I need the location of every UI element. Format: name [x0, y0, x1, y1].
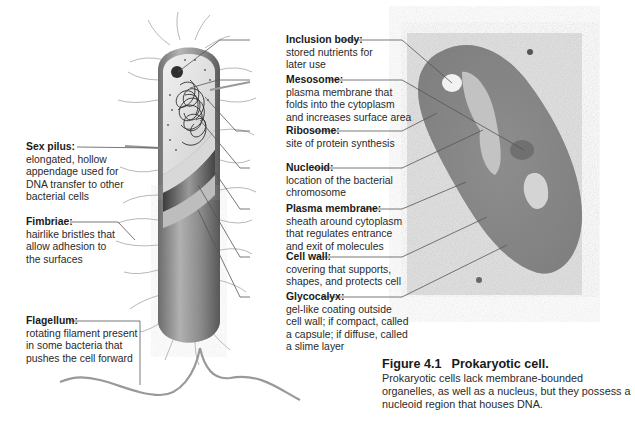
- label-flagellum: Flagellum: rotating filament present in …: [26, 315, 137, 365]
- figure-number: Figure 4.1: [382, 357, 442, 371]
- figure-title-text: Prokaryotic cell.: [452, 357, 549, 371]
- label-title: Ribosome:: [286, 125, 395, 138]
- label-inclusion-body: Inclusion body: stored nutrients for lat…: [286, 34, 373, 72]
- figure-caption-text: Prokaryotic cells lack membrane-bounded …: [382, 372, 632, 412]
- label-sex-pilus: Sex pilus: elongated, hollow appendage u…: [26, 141, 124, 204]
- label-title: Flagellum:: [26, 315, 137, 328]
- label-title: Plasma membrane:: [286, 203, 402, 216]
- label-desc: rotating filament present in some bacter…: [26, 328, 137, 366]
- label-title: Glycocalyx:: [286, 291, 408, 304]
- label-desc: plasma membrane that folds into the cyto…: [286, 87, 411, 125]
- label-desc: gel-like coating outside cell wall; if c…: [286, 304, 408, 354]
- label-desc: hairlike bristles that allow adhesion to…: [26, 229, 115, 267]
- label-desc: site of protein synthesis: [286, 138, 395, 151]
- label-title: Nucleoid:: [286, 162, 393, 175]
- label-desc: location of the bacterial chromosome: [286, 175, 393, 200]
- label-fimbriae: Fimbriae: hairlike bristles that allow a…: [26, 216, 115, 266]
- label-ribosome: Ribosome: site of protein synthesis: [286, 125, 395, 150]
- label-title: Cell wall:: [286, 251, 401, 264]
- label-cell-wall: Cell wall: covering that supports, shape…: [286, 251, 401, 289]
- figure-title: Figure 4.1Prokaryotic cell.: [382, 357, 632, 372]
- label-desc: stored nutrients for later use: [286, 47, 373, 72]
- label-desc: sheath around cytoplasm that regulates e…: [286, 216, 402, 254]
- label-mesosome: Mesosome: plasma membrane that folds int…: [286, 74, 411, 124]
- micrograph: [407, 33, 582, 295]
- label-glycocalyx: Glycocalyx: gel-like coating outside cel…: [286, 291, 408, 354]
- label-title: Sex pilus:: [26, 141, 124, 154]
- label-nucleoid: Nucleoid: location of the bacterial chro…: [286, 162, 393, 200]
- figure-caption: Figure 4.1Prokaryotic cell. Prokaryotic …: [382, 357, 632, 412]
- label-desc: elongated, hollow appendage used for DNA…: [26, 154, 124, 204]
- label-title: Fimbriae:: [26, 216, 115, 229]
- label-desc: covering that supports, shapes, and prot…: [286, 264, 401, 289]
- label-title: Inclusion body:: [286, 34, 373, 47]
- label-title: Mesosome:: [286, 74, 411, 87]
- label-plasma-membrane: Plasma membrane: sheath around cytoplasm…: [286, 203, 402, 253]
